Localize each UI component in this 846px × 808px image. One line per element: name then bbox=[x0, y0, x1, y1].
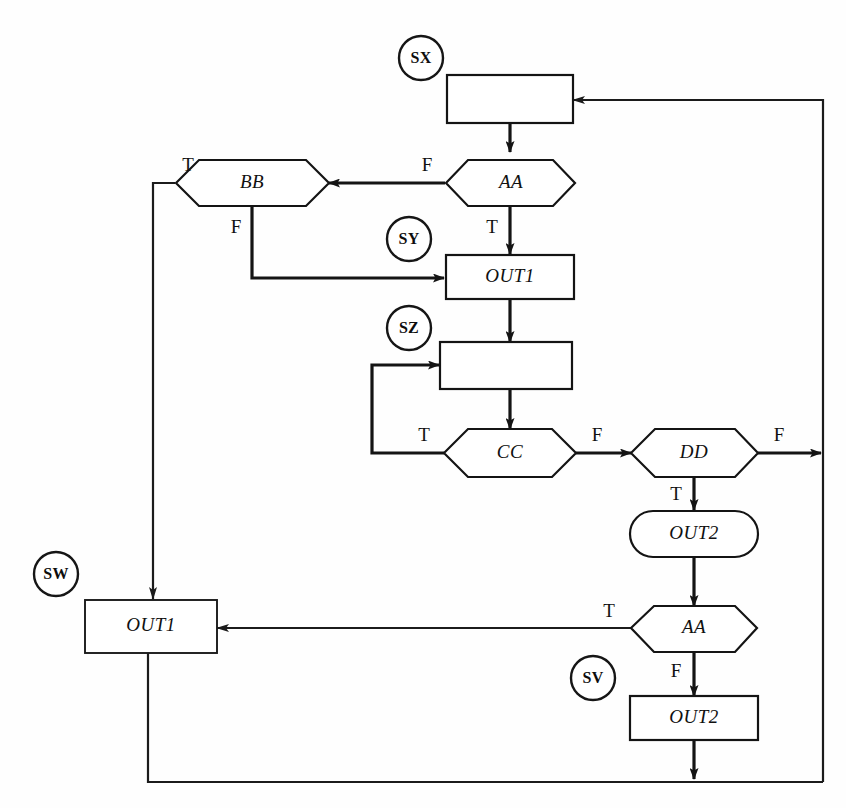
decision-bb-label: BB bbox=[240, 171, 264, 192]
process-box-sz[interactable] bbox=[440, 342, 572, 389]
tag-label-sz: SZ bbox=[399, 319, 419, 336]
edge-cc-true-to-szbox bbox=[372, 365, 444, 453]
process-box-sx[interactable] bbox=[447, 75, 573, 123]
tag-label-sw: SW bbox=[43, 565, 69, 582]
flowchart-canvas: AA BB OUT1 CC DD OUT2 AA OUT2 OUT1 SX SY bbox=[0, 0, 846, 808]
branch-label-aa-bottom-true: T bbox=[603, 600, 615, 621]
branch-label-bb-false: F bbox=[231, 216, 242, 237]
decision-cc-label: CC bbox=[497, 441, 523, 462]
branch-label-cc-false: F bbox=[592, 424, 603, 445]
process-box-out2-label: OUT2 bbox=[669, 706, 719, 727]
decision-aa-bottom-label: AA bbox=[680, 616, 706, 637]
decision-aa-top-label: AA bbox=[497, 171, 523, 192]
flowchart-svg: AA BB OUT1 CC DD OUT2 AA OUT2 OUT1 SX SY bbox=[0, 0, 846, 808]
process-box-out1-sw-label: OUT1 bbox=[126, 614, 176, 635]
process-box-out1-top-label: OUT1 bbox=[485, 265, 535, 286]
edge-bb-true-to-out1-sw bbox=[153, 183, 175, 599]
branch-label-aa-top-true: T bbox=[486, 216, 498, 237]
branch-label-aa-bottom-false: F bbox=[671, 660, 682, 681]
branch-label-bb-true: T bbox=[182, 154, 194, 175]
branch-label-dd-false: F bbox=[774, 424, 785, 445]
terminal-out2-label: OUT2 bbox=[669, 522, 719, 543]
tag-label-sv: SV bbox=[582, 669, 603, 686]
tag-label-sx: SX bbox=[410, 49, 431, 66]
tag-label-sy: SY bbox=[398, 230, 419, 247]
branch-label-cc-true: T bbox=[418, 424, 430, 445]
decision-dd-label: DD bbox=[679, 441, 708, 462]
branch-label-aa-top-false: F bbox=[422, 154, 433, 175]
branch-label-dd-true: T bbox=[670, 483, 682, 504]
